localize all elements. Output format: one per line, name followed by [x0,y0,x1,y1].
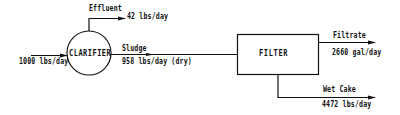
effluent-value-label: 42 lbs/day [127,12,168,22]
filtrate-name-label: Filtrate [333,31,366,41]
wet-cake-name-label: Wet Cake [323,85,356,95]
effluent-stream-line [89,19,125,32]
input-flow-label: 1000 lbs/day [19,57,68,67]
sludge-arrow-icon [146,53,154,56]
sludge-name-label: Sludge [122,44,147,54]
sludge-value-label: 958 lbs/day (dry) [122,57,192,67]
clarifier-label: CLARIFIER [69,48,111,58]
wet-cake-value-label: 4472 lbs/day [322,100,371,110]
filtrate-value-label: 2660 gal/day [332,48,381,58]
filter-label: FILTER [259,48,288,58]
effluent-name-label: Effluent [89,4,122,14]
